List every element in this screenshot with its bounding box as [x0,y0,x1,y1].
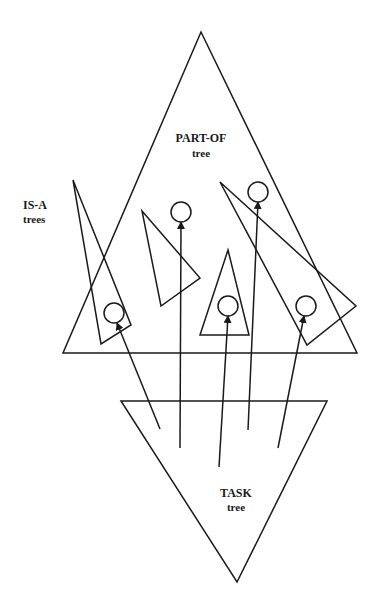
node-1-circle [104,303,124,323]
node-5-circle [296,296,316,316]
task-arrow-1 [117,323,160,429]
is-a-tree-2 [142,211,200,306]
is-a-tree-3 [200,250,249,335]
tree-diagram: PART-OF tree IS-A trees TASK tree [0,0,382,607]
task-label: TASK [220,486,252,500]
node-3-circle [218,296,238,316]
is-a-sub-label: trees [23,213,46,225]
node-4-circle [248,182,268,202]
task-arrow-3 [219,316,228,467]
task-arrow-2 [180,222,181,448]
part-of-sub-label: tree [192,147,210,159]
is-a-label: IS-A [23,198,47,212]
task-sub-label: tree [227,501,245,513]
task-arrow-5 [278,316,304,448]
part-of-label: PART-OF [176,131,227,145]
node-2-circle [171,202,191,222]
is-a-tree-4 [220,182,356,345]
